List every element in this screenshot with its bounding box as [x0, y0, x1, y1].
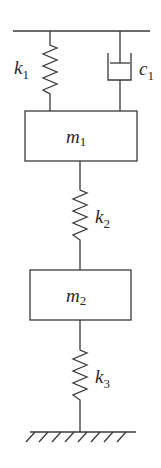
spring-k3: [73, 320, 87, 432]
label-k2: k2: [95, 206, 110, 231]
spring-k2: [73, 161, 87, 270]
label-m1: m1: [66, 126, 86, 149]
damper-c1: [108, 31, 131, 111]
spring-mass-damper-diagram: k1 c1 m1 k2 m2 k3: [0, 0, 161, 468]
label-k1: k1: [14, 57, 29, 82]
label-k3: k3: [95, 366, 110, 391]
spring-k1: [43, 31, 57, 111]
ground-support: [26, 432, 136, 442]
label-c1: c1: [139, 58, 154, 83]
label-m2: m2: [66, 285, 86, 308]
